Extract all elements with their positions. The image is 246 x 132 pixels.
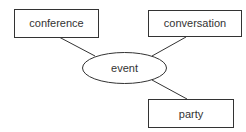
- node-conference-label: conference: [29, 17, 83, 29]
- edge-event-conversation: [152, 37, 186, 56]
- edge-event-conference: [59, 37, 95, 56]
- edge-event-party: [152, 80, 187, 99]
- node-party-label: party: [179, 108, 204, 120]
- node-event-label: event: [111, 62, 138, 74]
- node-event: event: [83, 53, 167, 84]
- node-party: party: [149, 100, 234, 128]
- node-conversation: conversation: [149, 11, 242, 37]
- concept-diagram: conference conversation event party: [0, 0, 246, 132]
- node-conference: conference: [15, 10, 99, 38]
- node-conversation-label: conversation: [164, 17, 226, 29]
